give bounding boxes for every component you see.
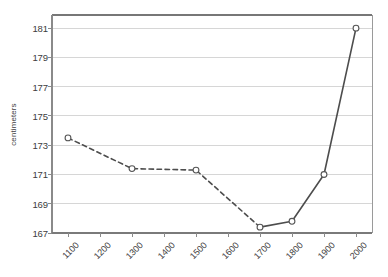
data-point-marker[interactable]: [257, 224, 263, 230]
x-axis-tick-label: 1600: [220, 240, 241, 261]
x-axis-tick-label: 2000: [348, 240, 369, 261]
data-point-marker[interactable]: [193, 167, 199, 173]
data-line-dashed: [68, 138, 260, 227]
data-point-marker[interactable]: [321, 172, 327, 178]
data-point-marker[interactable]: [65, 135, 71, 141]
x-axis-tick-label: 1400: [156, 240, 177, 261]
x-axis-tick-label: 1900: [316, 240, 337, 261]
data-point-marker[interactable]: [353, 25, 359, 31]
x-axis-tick-label: 1700: [252, 240, 273, 261]
x-axis-tick-label: 1300: [124, 240, 145, 261]
x-axis-tick-label: 1200: [92, 240, 113, 261]
line-chart: centimeters 167169171173175177179181 110…: [0, 0, 388, 277]
data-line-solid: [260, 28, 356, 227]
data-point-marker[interactable]: [129, 166, 135, 172]
data-point-marker[interactable]: [289, 218, 295, 224]
x-axis-tick-labels: 1100120013001400150016001700180019002000: [0, 238, 388, 277]
x-axis-tick-label: 1100: [60, 240, 81, 261]
plot-area: [0, 0, 388, 277]
x-axis-tick-label: 1500: [188, 240, 209, 261]
x-axis-tick-label: 1800: [284, 240, 305, 261]
